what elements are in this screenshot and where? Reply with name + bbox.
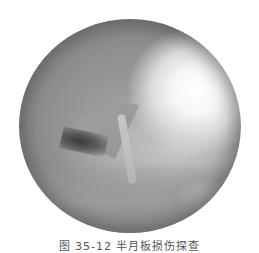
arthroscopic-view <box>19 19 241 233</box>
figure-caption: 图 35-12 半月板损伤探查 <box>0 237 259 253</box>
scope-vignette <box>19 19 241 233</box>
